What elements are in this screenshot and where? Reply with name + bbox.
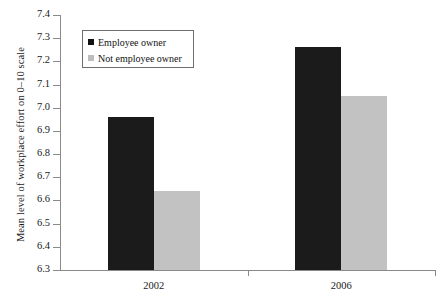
y-tick-label: 6.7: [16, 171, 50, 182]
y-axis-line: [60, 15, 61, 271]
y-tick-mark: [53, 38, 60, 39]
y-tick-mark: [53, 270, 60, 271]
legend-item-employee-owner: Employee owner: [88, 34, 188, 50]
bar-2006-not-employee-owner: [341, 96, 387, 270]
y-tick-mark: [53, 131, 60, 132]
y-tick-mark: [53, 247, 60, 248]
y-tick-mark: [53, 108, 60, 109]
legend: Employee owner Not employee owner: [82, 30, 194, 68]
bar-2002-not-employee-owner: [154, 191, 200, 270]
y-tick-label: 6.6: [16, 194, 50, 205]
y-tick-label: 7.4: [16, 9, 50, 20]
legend-label-not-employee-owner: Not employee owner: [98, 53, 182, 64]
y-tick-label: 6.9: [16, 125, 50, 136]
legend-swatch-icon-not-employee-owner: [88, 55, 94, 61]
y-tick-label: 7.0: [16, 102, 50, 113]
bar-chart: Mean level of workplace effort on 0–10 s…: [0, 0, 436, 298]
y-tick-mark: [53, 154, 60, 155]
y-tick-mark: [53, 200, 60, 201]
bar-2002-employee-owner: [108, 117, 154, 270]
y-tick-label: 7.1: [16, 79, 50, 90]
y-tick-mark: [53, 177, 60, 178]
bar-2006-employee-owner: [295, 47, 341, 270]
y-tick-mark: [53, 224, 60, 225]
y-tick-label: 6.4: [16, 241, 50, 252]
x-tick-mark: [248, 270, 249, 276]
legend-label-employee-owner: Employee owner: [98, 37, 166, 48]
legend-swatch-icon-employee-owner: [88, 39, 94, 45]
y-tick-label: 6.5: [16, 218, 50, 229]
y-tick-label: 7.2: [16, 55, 50, 66]
y-tick-label: 7.3: [16, 32, 50, 43]
y-tick-mark: [53, 85, 60, 86]
y-tick-mark: [53, 15, 60, 16]
x-category-label: 2006: [311, 281, 371, 292]
y-tick-mark: [53, 61, 60, 62]
y-tick-label: 6.8: [16, 148, 50, 159]
legend-item-not-employee-owner: Not employee owner: [88, 50, 188, 66]
x-category-label: 2002: [124, 281, 184, 292]
y-tick-label: 6.3: [16, 264, 50, 275]
